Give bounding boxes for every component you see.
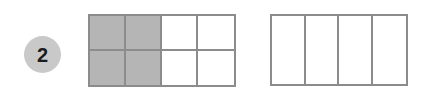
fraction-cell[interactable] (90, 51, 126, 86)
fraction-cell[interactable] (162, 51, 198, 86)
fraction-cell[interactable] (272, 16, 306, 84)
fraction-cell[interactable] (90, 16, 126, 51)
fraction-cell[interactable] (306, 16, 340, 84)
fraction-model-right[interactable] (270, 14, 408, 86)
fraction-cell[interactable] (373, 16, 407, 84)
fraction-cell[interactable] (198, 51, 234, 86)
fraction-cell[interactable] (339, 16, 373, 84)
fraction-model-left[interactable] (88, 14, 236, 87)
fraction-cell[interactable] (126, 16, 162, 51)
fraction-cell[interactable] (198, 16, 234, 51)
problem-number-label: 2 (37, 45, 48, 65)
fraction-cell[interactable] (126, 51, 162, 86)
fraction-cell[interactable] (162, 16, 198, 51)
problem-number-badge: 2 (24, 36, 61, 73)
